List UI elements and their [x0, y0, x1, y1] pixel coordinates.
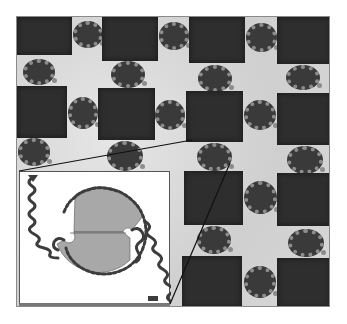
- connector-lines: [0, 0, 347, 324]
- connector-line-top: [19, 140, 192, 171]
- connector-line-bottom: [170, 163, 230, 304]
